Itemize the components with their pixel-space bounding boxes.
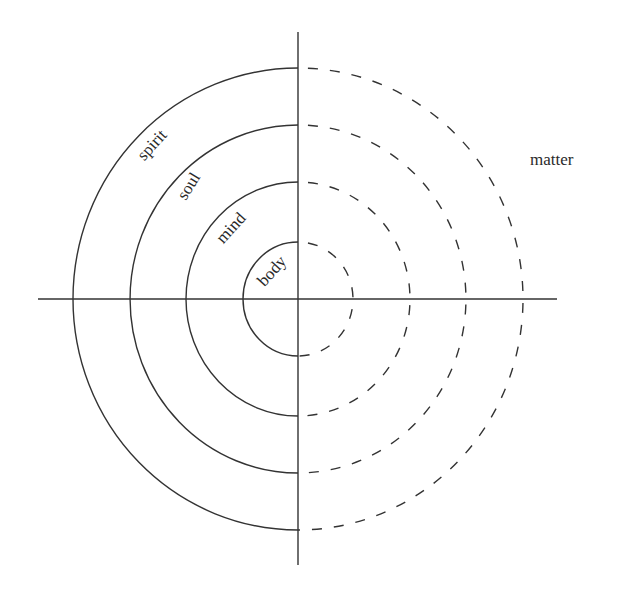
label-soul: soul [173,169,204,203]
label-mind: mind [212,208,250,247]
label-body: body [253,252,290,290]
label-spirit: spirit [133,125,171,164]
diagram-canvas: body mind soul spirit matter [0,0,617,599]
concentric-rings-diagram: body mind soul spirit matter [0,0,617,599]
label-matter: matter [530,150,574,169]
